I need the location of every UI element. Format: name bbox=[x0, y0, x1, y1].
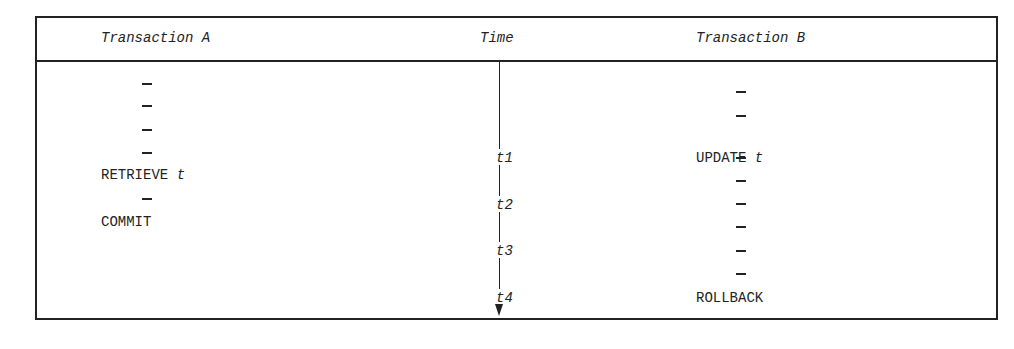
b-idle-dash bbox=[736, 273, 746, 275]
b-rollback-stmt: ROLLBACK bbox=[696, 290, 763, 306]
a-idle-dash bbox=[142, 198, 152, 200]
header-time: Time bbox=[480, 30, 514, 46]
b-idle-dash bbox=[736, 180, 746, 182]
header-transaction-b: Transaction B bbox=[696, 30, 805, 46]
a-commit-stmt: COMMIT bbox=[101, 214, 151, 230]
a-idle-dash bbox=[142, 105, 152, 107]
b-idle-dash bbox=[736, 115, 746, 117]
time-label-t2: t2 bbox=[496, 197, 513, 213]
header-divider bbox=[35, 60, 998, 62]
b-idle-dash bbox=[736, 250, 746, 252]
b-update-stmt: UPDATE t bbox=[696, 150, 763, 166]
b-idle-dash bbox=[736, 203, 746, 205]
a-idle-dash bbox=[142, 83, 152, 85]
b-idle-dash bbox=[736, 157, 746, 159]
time-label-t4: t4 bbox=[496, 290, 513, 306]
a-idle-dash bbox=[142, 152, 152, 154]
time-label-t1: t1 bbox=[496, 150, 513, 166]
b-idle-dash bbox=[736, 226, 746, 228]
b-idle-dash bbox=[736, 91, 746, 93]
time-axis bbox=[499, 62, 500, 306]
time-label-t3: t3 bbox=[496, 243, 513, 259]
a-idle-dash bbox=[142, 129, 152, 131]
a-retrieve-stmt: RETRIEVE t bbox=[101, 167, 185, 183]
header-transaction-a: Transaction A bbox=[101, 30, 210, 46]
